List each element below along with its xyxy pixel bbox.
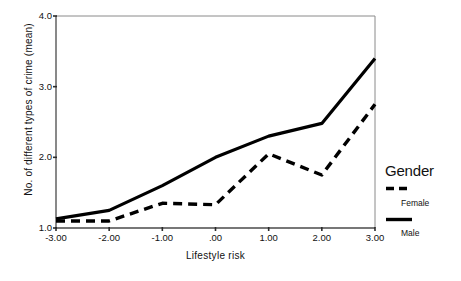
legend-entry-male[interactable]: Male bbox=[385, 210, 461, 239]
legend-swatch-solid bbox=[386, 215, 412, 224]
x-axis-tick-label: -1.00 bbox=[137, 232, 187, 243]
legend-entry-female[interactable]: Female bbox=[385, 180, 461, 209]
legend-title: Gender bbox=[385, 163, 461, 179]
series-line-male bbox=[56, 58, 375, 218]
series-line-female bbox=[56, 104, 375, 221]
data-series-layer bbox=[56, 58, 375, 221]
x-axis-tick-label: -3.00 bbox=[31, 232, 81, 243]
legend-entry-label: Male bbox=[401, 228, 461, 239]
x-axis-tick-label: 2.00 bbox=[297, 232, 347, 243]
chart-figure: No. of different types of crime (mean) 1… bbox=[0, 0, 461, 281]
x-axis-tick-label: 1.00 bbox=[244, 232, 294, 243]
x-axis-tick-label: -2.00 bbox=[84, 232, 134, 243]
legend-entries: FemaleMale bbox=[385, 180, 461, 239]
x-axis-title: Lifestyle risk bbox=[56, 250, 375, 261]
x-axis-tick-label: .00 bbox=[191, 232, 241, 243]
legend-swatch-dashed bbox=[386, 184, 412, 193]
legend-entry-label: Female bbox=[401, 198, 461, 209]
legend: Gender FemaleMale bbox=[385, 163, 461, 239]
